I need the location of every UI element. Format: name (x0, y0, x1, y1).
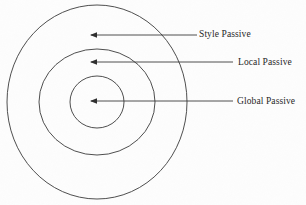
arrow-head-local-passive (90, 59, 97, 65)
diagram-canvas: Style Passive Local Passive Global Passi… (0, 0, 306, 205)
arrow-head-style-passive (90, 32, 97, 38)
arrow-head-global-passive (90, 98, 97, 104)
leader-global-passive (90, 98, 233, 104)
label-local-passive: Local Passive (238, 57, 292, 67)
label-global-passive: Global Passive (237, 96, 295, 106)
leader-style-passive (90, 32, 197, 38)
label-style-passive: Style Passive (199, 29, 251, 39)
leader-local-passive (90, 59, 233, 65)
